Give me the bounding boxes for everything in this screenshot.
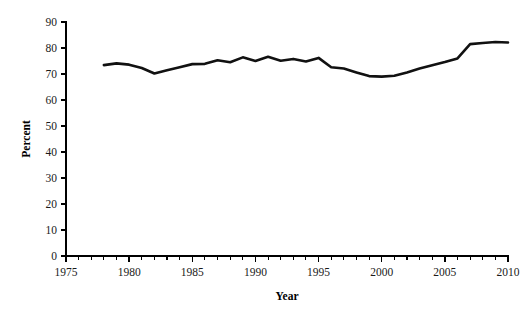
x-axis-title: Year	[276, 290, 299, 302]
x-tick-label: 1990	[244, 266, 267, 278]
y-axis-ticks: 0102030405060708090	[46, 16, 67, 262]
line-chart-canvas: 0102030405060708090 19751980198519901995…	[0, 0, 530, 317]
x-tick-label: 2005	[433, 266, 456, 278]
y-tick-label: 20	[46, 198, 58, 210]
y-tick-label: 70	[46, 68, 58, 80]
y-tick-label: 0	[51, 250, 57, 262]
y-tick-label: 80	[46, 42, 58, 54]
x-tick-label: 1980	[118, 266, 141, 278]
y-tick-label: 30	[46, 172, 58, 184]
y-tick-label: 10	[46, 224, 58, 236]
y-tick-label: 60	[46, 94, 58, 106]
chart-figure: 0102030405060708090 19751980198519901995…	[0, 0, 530, 317]
x-tick-label: 1995	[307, 266, 330, 278]
y-tick-label: 40	[46, 146, 58, 158]
x-tick-label: 2000	[370, 266, 393, 278]
x-tick-label: 1985	[181, 266, 204, 278]
x-tick-label: 1975	[55, 266, 78, 278]
x-tick-label: 2010	[497, 266, 520, 278]
y-axis-title: Percent	[20, 120, 32, 158]
x-axis-ticks: 19751980198519901995200020052010	[55, 256, 520, 278]
y-tick-label: 90	[46, 16, 58, 28]
y-tick-label: 50	[46, 120, 58, 132]
data-series-line	[104, 42, 508, 77]
